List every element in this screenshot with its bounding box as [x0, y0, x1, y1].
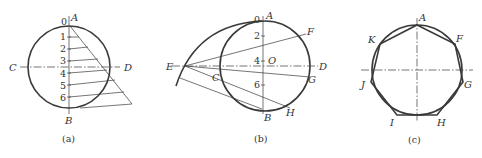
figure-c: A F G H I J K (c) — [359, 12, 473, 145]
label-c: C — [212, 72, 220, 83]
label-o: O — [268, 55, 276, 66]
transfer-line-7 — [80, 104, 132, 108]
label-a: A — [418, 12, 426, 23]
caption-a: (a) — [62, 133, 75, 144]
transfer-line-5 — [69, 80, 115, 85]
division-2: 2 — [254, 30, 260, 41]
division-2: 2 — [60, 43, 66, 54]
label-g: G — [308, 74, 316, 85]
caption-c: (c) — [408, 134, 421, 145]
label-g: G — [464, 79, 472, 90]
figure-b: 0 A 2 4 O 6 F D G H B E C (b) — [165, 10, 327, 144]
transfer-line-6 — [69, 92, 124, 97]
transfer-line-4 — [69, 70, 107, 73]
label-d: D — [123, 62, 132, 73]
division-1: 1 — [60, 31, 66, 42]
label-i: I — [389, 117, 395, 128]
label-k: K — [367, 34, 376, 45]
ray-to-b — [180, 78, 262, 109]
division-6: 6 — [254, 79, 260, 90]
label-b: B — [263, 112, 271, 123]
division-4: 4 — [60, 68, 66, 79]
label-d: D — [318, 61, 327, 72]
ray-eg — [185, 66, 310, 77]
ray-ef — [185, 34, 306, 66]
label-f: F — [306, 26, 315, 37]
figure-a: 0 A 1 2 3 4 5 6 C D B (a) — [9, 12, 132, 144]
label-f: F — [455, 33, 464, 44]
label-c: C — [9, 62, 17, 73]
division-0: 0 — [254, 14, 260, 25]
label-a: A — [70, 12, 78, 23]
caption-b: (b) — [254, 133, 268, 144]
transfer-line-2 — [69, 47, 88, 49]
division-4: 4 — [254, 55, 260, 66]
label-b: B — [64, 115, 72, 126]
division-5: 5 — [60, 80, 66, 91]
label-h: H — [436, 117, 446, 128]
label-j: J — [359, 79, 366, 90]
label-e: E — [165, 61, 174, 72]
geometry-figure: 0 A 1 2 3 4 5 6 C D B (a) 0 A 2 4 O 6 F … — [0, 0, 482, 158]
label-h: H — [285, 107, 295, 118]
label-a: A — [265, 10, 273, 21]
division-3: 3 — [60, 55, 66, 66]
division-0: 0 — [61, 16, 67, 27]
transfer-line-3 — [69, 59, 98, 61]
division-6: 6 — [60, 92, 66, 103]
